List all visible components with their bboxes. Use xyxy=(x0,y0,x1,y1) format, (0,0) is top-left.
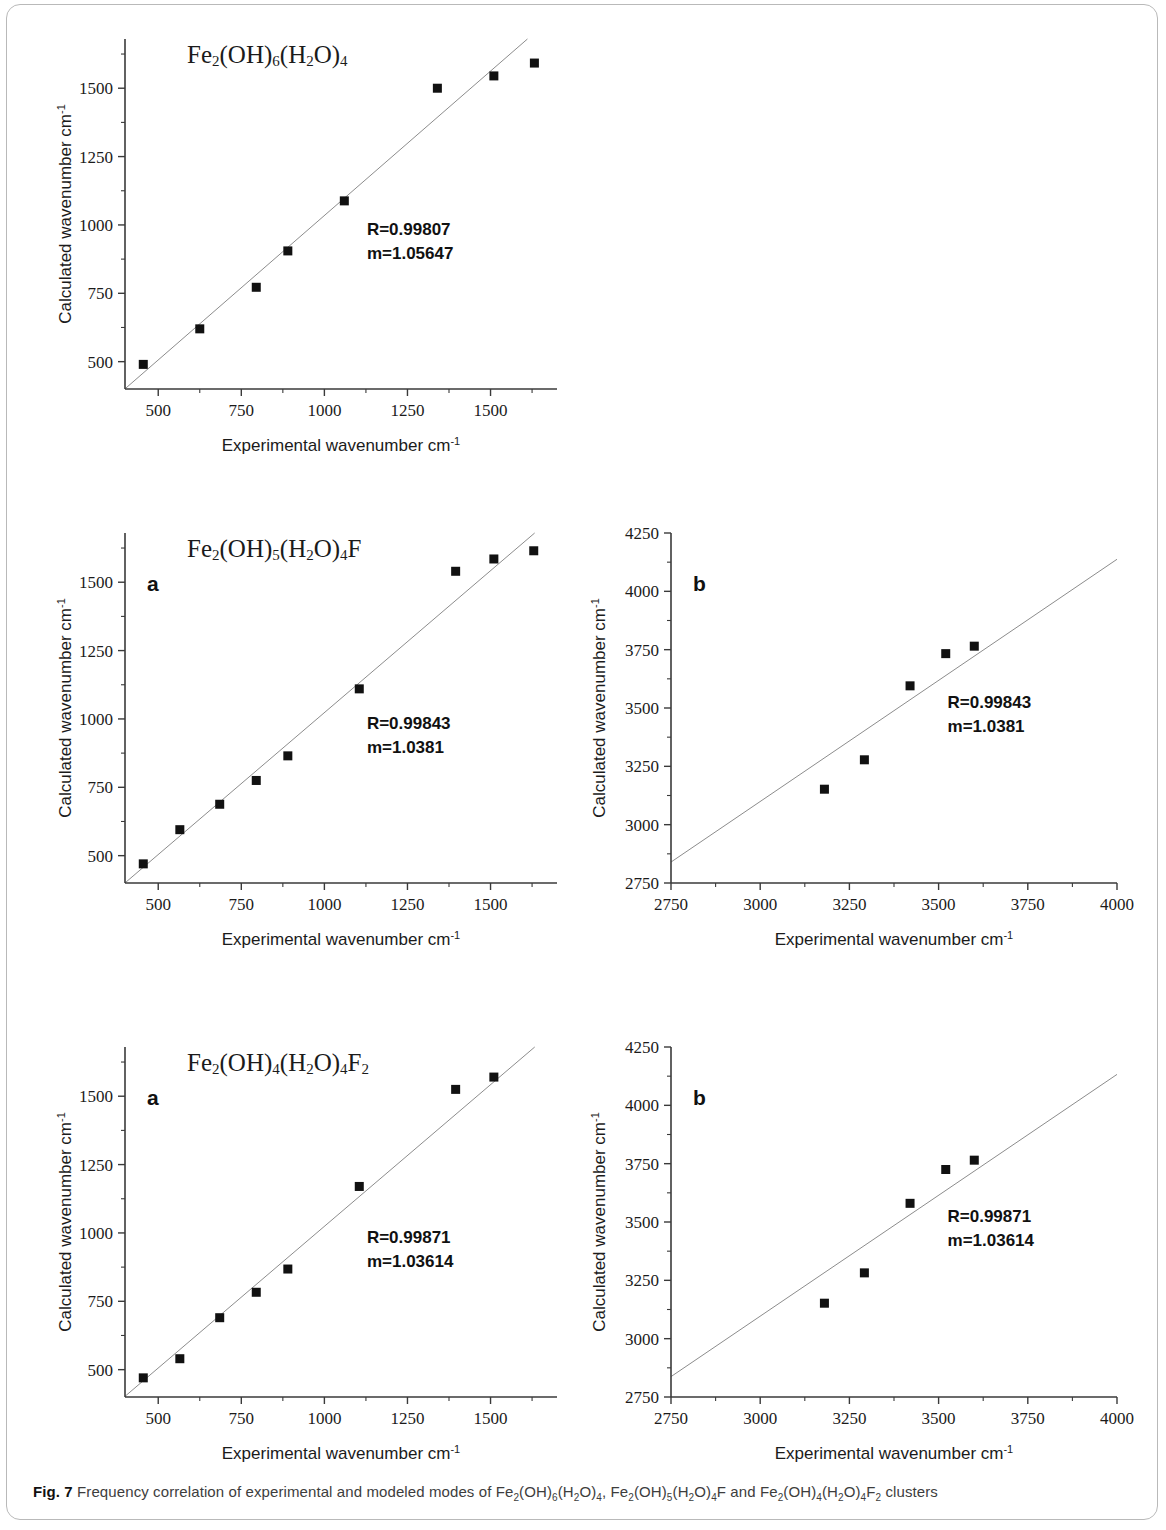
figure-frame: 500750100012501500500750100012501500Expe… xyxy=(6,4,1158,1520)
x-tick-label: 1250 xyxy=(390,401,424,420)
data-point xyxy=(252,283,261,292)
x-tick-label: 500 xyxy=(145,895,171,914)
annotation-r: R=0.99843 xyxy=(948,693,1032,712)
chart-panel-1: 500750100012501500500750100012501500Expe… xyxy=(47,11,577,481)
y-tick-label: 1000 xyxy=(79,710,113,729)
x-tick-label: 750 xyxy=(229,895,255,914)
y-tick-label: 1000 xyxy=(79,216,113,235)
x-tick-label: 1250 xyxy=(390,1409,424,1428)
chart-panel-3a: 500750100012501500500750100012501500Expe… xyxy=(47,1019,577,1489)
x-axis-title: Experimental wavenumber cm-1 xyxy=(222,435,460,455)
x-tick-label: 3750 xyxy=(1011,895,1045,914)
y-tick-label: 3750 xyxy=(625,641,659,660)
y-tick-label: 3250 xyxy=(625,757,659,776)
data-point xyxy=(433,84,442,93)
y-tick-label: 1500 xyxy=(79,79,113,98)
y-tick-label: 3000 xyxy=(625,816,659,835)
x-tick-label: 1500 xyxy=(474,1409,508,1428)
annotation-r: R=0.99807 xyxy=(367,220,451,239)
y-axis-title: Calculated wavenumber cm-1 xyxy=(55,104,75,324)
y-tick-label: 750 xyxy=(88,778,114,797)
x-axis-title: Experimental wavenumber cm-1 xyxy=(222,1443,460,1463)
data-point xyxy=(530,59,539,68)
y-tick-label: 3250 xyxy=(625,1271,659,1290)
y-tick-label: 1500 xyxy=(79,573,113,592)
data-point xyxy=(489,1073,498,1082)
x-tick-label: 2750 xyxy=(654,1409,688,1428)
annotation-m: m=1.03614 xyxy=(367,1252,454,1271)
figure-caption: Fig. 7 Frequency correlation of experime… xyxy=(33,1483,1143,1505)
data-point xyxy=(215,1313,224,1322)
data-point xyxy=(283,246,292,255)
regression-line xyxy=(125,533,535,883)
data-point xyxy=(283,1265,292,1274)
chart-svg-panel-1: 500750100012501500500750100012501500Expe… xyxy=(47,11,577,481)
x-tick-label: 500 xyxy=(145,401,171,420)
panel-title-formula: Fe2(OH)4(H2O)4F2 xyxy=(187,1049,369,1077)
data-point xyxy=(139,1373,148,1382)
figure-caption-text: Frequency correlation of experimental an… xyxy=(77,1483,938,1500)
data-point xyxy=(451,567,460,576)
y-tick-label: 4250 xyxy=(625,1038,659,1057)
data-point xyxy=(175,825,184,834)
chart-svg-panel-3b: 2750300032503500375040002750300032503500… xyxy=(579,1019,1139,1489)
panel-title-formula: Fe2(OH)6(H2O)4 xyxy=(187,41,348,69)
y-tick-label: 1250 xyxy=(79,1156,113,1175)
x-tick-label: 4000 xyxy=(1100,1409,1134,1428)
y-axis-title: Calculated wavenumber cm-1 xyxy=(589,598,609,818)
data-point xyxy=(970,642,979,651)
x-tick-label: 1000 xyxy=(307,1409,341,1428)
data-point xyxy=(820,785,829,794)
y-tick-label: 500 xyxy=(88,353,114,372)
x-tick-label: 3500 xyxy=(922,895,956,914)
data-point xyxy=(489,71,498,80)
x-tick-label: 1000 xyxy=(307,401,341,420)
y-tick-label: 1250 xyxy=(79,642,113,661)
data-point xyxy=(820,1299,829,1308)
caption-formula: Fe2(OH)4(H2O)4F2 xyxy=(760,1483,881,1500)
x-tick-label: 500 xyxy=(145,1409,171,1428)
x-tick-label: 1000 xyxy=(307,895,341,914)
y-tick-label: 750 xyxy=(88,1292,114,1311)
data-point xyxy=(860,1268,869,1277)
chart-panel-2b: 2750300032503500375040002750300032503500… xyxy=(579,505,1139,975)
regression-line xyxy=(671,1074,1117,1376)
x-tick-label: 3000 xyxy=(743,1409,777,1428)
data-point xyxy=(175,1354,184,1363)
x-tick-label: 3750 xyxy=(1011,1409,1045,1428)
y-tick-label: 1500 xyxy=(79,1087,113,1106)
x-tick-label: 1500 xyxy=(474,401,508,420)
x-tick-label: 3250 xyxy=(832,895,866,914)
regression-line xyxy=(125,39,527,389)
annotation-m: m=1.03614 xyxy=(948,1231,1035,1250)
y-axis-title: Calculated wavenumber cm-1 xyxy=(55,598,75,818)
y-tick-label: 500 xyxy=(88,847,114,866)
regression-line xyxy=(125,1047,535,1396)
x-tick-label: 1500 xyxy=(474,895,508,914)
x-tick-label: 750 xyxy=(229,401,255,420)
data-point xyxy=(139,859,148,868)
x-axis-title: Experimental wavenumber cm-1 xyxy=(775,929,1013,949)
y-tick-label: 2750 xyxy=(625,1388,659,1407)
panel-letter: b xyxy=(693,1086,706,1109)
x-tick-label: 1250 xyxy=(390,895,424,914)
annotation-m: m=1.0381 xyxy=(367,738,444,757)
y-tick-label: 4000 xyxy=(625,1096,659,1115)
data-point xyxy=(860,755,869,764)
data-point xyxy=(252,1288,261,1297)
data-point xyxy=(283,751,292,760)
data-point xyxy=(906,681,915,690)
y-tick-label: 1250 xyxy=(79,148,113,167)
data-point xyxy=(970,1156,979,1165)
y-axis-title: Calculated wavenumber cm-1 xyxy=(589,1112,609,1332)
annotation-r: R=0.99871 xyxy=(367,1228,451,1247)
y-tick-label: 4000 xyxy=(625,582,659,601)
chart-panel-3b: 2750300032503500375040002750300032503500… xyxy=(579,1019,1139,1489)
panel-title-formula: Fe2(OH)5(H2O)4F xyxy=(187,535,361,563)
y-axis-title: Calculated wavenumber cm-1 xyxy=(55,1112,75,1332)
chart-svg-panel-2a: 500750100012501500500750100012501500Expe… xyxy=(47,505,577,975)
y-tick-label: 500 xyxy=(88,1361,114,1380)
x-tick-label: 3500 xyxy=(922,1409,956,1428)
x-tick-label: 3250 xyxy=(832,1409,866,1428)
figure-label: Fig. 7 xyxy=(33,1483,73,1500)
